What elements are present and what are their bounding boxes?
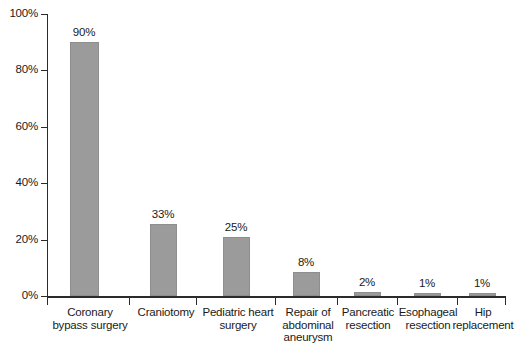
bar: [354, 292, 381, 296]
bar-value-label: 90%: [73, 27, 95, 39]
y-axis-tick-label: 60%: [0, 121, 38, 133]
bar-value-label: 8%: [298, 257, 314, 269]
x-axis-line: [47, 296, 506, 298]
bar-value-label: 2%: [359, 277, 375, 289]
bar-value-label: 1%: [474, 278, 490, 290]
bar-chart: 0%20%40%60%80%100% Coronary bypass surge…: [0, 0, 519, 347]
y-axis-tick-label: 100%: [0, 8, 38, 20]
bar: [70, 42, 99, 296]
bar: [414, 293, 441, 296]
bar: [469, 293, 496, 296]
y-axis-tick-label: 40%: [0, 177, 38, 189]
x-axis-tick: [505, 298, 506, 305]
bar: [150, 224, 177, 296]
x-axis-tick: [275, 298, 276, 305]
y-axis-tick-label: 80%: [0, 64, 38, 76]
x-axis-tick: [47, 298, 48, 305]
x-axis-tick: [129, 298, 130, 305]
bar-value-label: 25%: [225, 222, 247, 234]
x-axis-tick: [457, 298, 458, 305]
x-axis-tick: [397, 298, 398, 305]
x-axis-tick: [337, 298, 338, 305]
x-axis-tick: [196, 298, 197, 305]
plot-area: [47, 14, 505, 296]
bar-value-label: 1%: [419, 278, 435, 290]
y-axis-tick-label: 0%: [0, 290, 38, 302]
bar-value-label: 33%: [152, 209, 174, 221]
x-axis-category-label: Hip replacement: [443, 306, 519, 331]
bar: [293, 272, 320, 296]
y-axis-tick-label: 20%: [0, 234, 38, 246]
bar: [223, 237, 250, 296]
